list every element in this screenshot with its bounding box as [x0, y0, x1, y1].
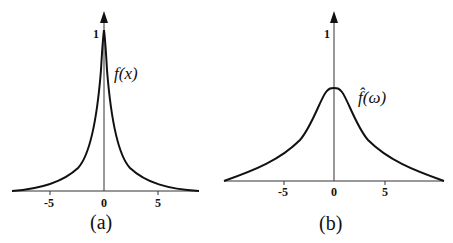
y-axis-arrow-icon [330, 11, 338, 23]
x-tick-neg5: -5 [278, 185, 288, 199]
caption-a: (a) [90, 211, 112, 234]
curve-f [12, 30, 199, 191]
function-label-f-hat: f̂(ω) [358, 87, 386, 107]
x-tick-0: 0 [331, 185, 337, 199]
x-tick-5: 5 [382, 185, 388, 199]
panel-a: 1 f(x) -5 0 5 (a) [12, 11, 199, 234]
y-tick-1: 1 [93, 27, 99, 41]
x-tick-5: 5 [155, 196, 161, 210]
function-label-f: f(x) [114, 64, 138, 83]
x-tick-0: 0 [101, 196, 107, 210]
x-tick-neg5: -5 [44, 196, 54, 210]
y-axis-arrow-icon [100, 11, 108, 23]
caption-b: (b) [319, 212, 342, 235]
y-tick-1: 1 [324, 27, 330, 41]
panel-b: 1 f̂(ω) -5 0 5 (b) [224, 11, 444, 235]
figure: 1 f(x) -5 0 5 (a) 1 f̂(ω) -5 0 5 (b) [0, 0, 453, 243]
